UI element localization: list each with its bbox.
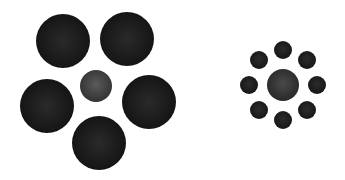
small-surround-circle bbox=[274, 41, 292, 59]
ebbinghaus-illusion bbox=[0, 0, 345, 180]
small-surround-circle bbox=[298, 51, 316, 69]
small-surround-circle bbox=[250, 101, 268, 119]
large-surround-circle bbox=[100, 12, 154, 66]
large-surround-circle bbox=[122, 75, 176, 129]
large-surround-circle bbox=[36, 14, 90, 68]
large-surround-circle bbox=[20, 79, 74, 133]
right-center-circle bbox=[267, 69, 299, 101]
small-surround-circle bbox=[308, 76, 326, 94]
small-surround-circle bbox=[240, 76, 258, 94]
small-surround-circle bbox=[250, 51, 268, 69]
small-surround-circle bbox=[298, 101, 316, 119]
large-surround-circle bbox=[72, 116, 126, 170]
left-center-circle bbox=[80, 70, 112, 102]
small-surround-circle bbox=[274, 111, 292, 129]
